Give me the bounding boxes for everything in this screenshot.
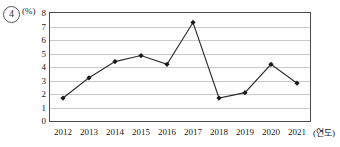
y-axis-tick-label: 7 [42,22,47,31]
y-axis-tick-label: 4 [42,63,47,72]
y-axis-tick-label: 5 [42,49,47,58]
data-point-marker [138,53,143,58]
x-axis-tick-label: 2020 [262,127,280,137]
x-axis-title: (연도) [313,128,335,138]
x-axis-tick-label: 2021 [288,127,306,137]
y-axis-tick-label: 8 [42,9,47,18]
x-axis-tick-label: 2013 [80,127,98,137]
x-axis-tick-label: 2018 [210,127,228,137]
x-axis-tick-label: 2017 [184,127,202,137]
item-number-badge: 4 [3,6,20,23]
y-axis-tick-label: 2 [42,90,47,99]
data-point-marker [164,62,169,67]
x-axis-tick-label: 2015 [132,127,150,137]
series-line [63,22,297,98]
data-point-marker [190,20,195,25]
y-axis-unit-label: (%) [22,6,36,16]
data-point-marker [112,59,117,64]
plot-area: 012345678 201220132014201520162017201820… [49,12,311,122]
line-series [50,13,310,121]
y-axis-tick-label: 0 [42,117,47,126]
x-axis-tick-label: 2019 [236,127,254,137]
x-axis-tick-label: 2014 [106,127,124,137]
y-axis-tick-label: 3 [42,76,47,85]
data-point-marker [216,95,221,100]
y-axis-tick-label: 6 [42,36,47,45]
y-axis-tick-label: 1 [42,103,47,112]
chart-figure: 4 (%) 012345678 201220132014201520162017… [0,0,340,147]
x-axis-tick-label: 2016 [158,127,176,137]
x-axis-tick-label: 2012 [54,127,72,137]
